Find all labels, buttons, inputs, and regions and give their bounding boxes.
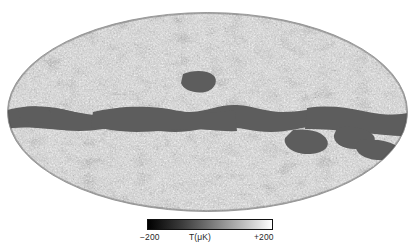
colorbar-max-label: +200 — [254, 232, 274, 242]
cmb-skymap — [7, 12, 408, 212]
figure-panel: −200 T(μK) +200 — [0, 0, 417, 252]
colorbar-min-label: −200 — [140, 232, 160, 242]
colorbar-unit-label: T(μK) — [189, 232, 211, 242]
colorbar-labels: −200 T(μK) +200 — [128, 232, 296, 246]
colorbar-container — [147, 219, 273, 230]
skymap-clip-group — [7, 12, 408, 212]
temperature-colorbar — [147, 219, 273, 230]
cmb-skymap-svg — [7, 12, 408, 212]
